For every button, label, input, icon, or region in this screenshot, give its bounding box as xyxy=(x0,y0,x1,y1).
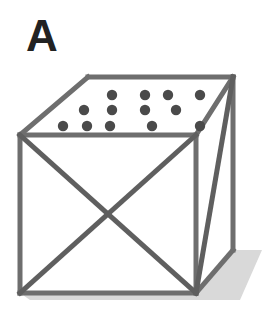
top-face-dot xyxy=(140,105,150,115)
top-face-dot xyxy=(195,90,205,100)
cube-figure xyxy=(0,0,273,320)
top-face-dot xyxy=(107,90,117,100)
top-face-dot xyxy=(107,105,117,115)
top-face-dot xyxy=(195,121,205,131)
top-face-dot xyxy=(140,90,150,100)
top-face-dot xyxy=(58,121,68,131)
top-face-dot xyxy=(147,121,157,131)
top-face-dot xyxy=(82,121,92,131)
top-face-dot xyxy=(105,121,115,131)
figure-canvas: A xyxy=(0,0,273,320)
top-face-dot xyxy=(171,105,181,115)
top-face-dot xyxy=(163,90,173,100)
top-face-dot xyxy=(79,105,89,115)
